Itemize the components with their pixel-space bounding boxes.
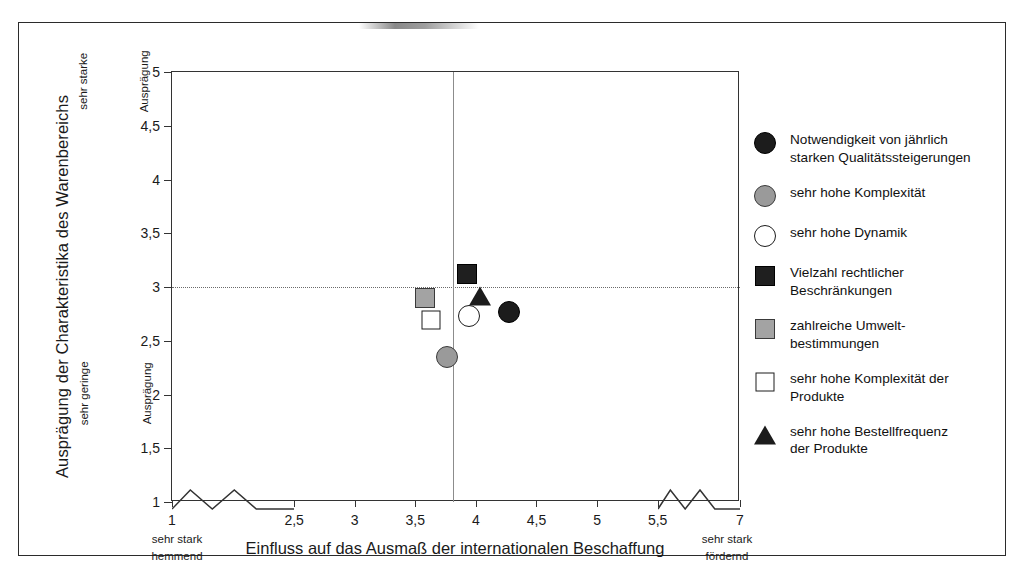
- x-axis-title: Einfluss auf das Ausmaß der internationa…: [171, 539, 739, 558]
- x-tick-label: 3: [351, 512, 359, 528]
- marker-square-gray: [755, 319, 775, 339]
- legend-label: sehr hohe Komplexität: [790, 184, 925, 202]
- x-axis-left-end-label: sehr stark hemmend: [129, 531, 225, 564]
- x-tick-mark: [740, 500, 741, 507]
- y-tick-label: 2: [152, 387, 160, 403]
- marker-square-filled: [457, 264, 477, 284]
- x-axis-right-end-label: sehr stark fördernd: [679, 531, 775, 564]
- y-tick-label: 3,5: [141, 225, 160, 241]
- x-tick-label: 4,5: [527, 512, 546, 528]
- data-point[interactable]: [469, 286, 491, 305]
- x-tick-label: 3,5: [406, 512, 425, 528]
- x-tick-mark: [658, 500, 659, 507]
- legend: Notwendigkeit von jährlich starken Quali…: [754, 131, 1012, 475]
- legend-label: sehr hohe Dynamik: [790, 224, 907, 242]
- y-tick-mark: [164, 341, 172, 342]
- y-tick-label: 2,5: [141, 333, 160, 349]
- y-axis-title: Ausprägung der Charakteristika des Waren…: [51, 71, 73, 501]
- reference-line-horizontal: [172, 287, 740, 288]
- legend-item[interactable]: Notwendigkeit von jährlich starken Quali…: [754, 131, 1012, 167]
- marker-circle-open: [458, 305, 480, 327]
- legend-item[interactable]: zahlreiche Umwelt- bestimmungen: [754, 317, 1012, 353]
- y-tick-label: 4: [152, 172, 160, 188]
- figure-frame: Ausprägung der Charakteristika des Waren…: [18, 22, 1006, 556]
- marker-triangle-filled: [469, 286, 491, 305]
- marker-circle-filled: [754, 132, 776, 154]
- x-tick-label: 5: [593, 512, 601, 528]
- y-tick-label: 4,5: [141, 118, 160, 134]
- y-tick-mark: [164, 180, 172, 181]
- data-point[interactable]: [458, 305, 480, 327]
- reference-line-vertical: [453, 72, 454, 502]
- x-tick-mark: [294, 500, 295, 507]
- marker-square-open: [756, 372, 775, 391]
- x-tick-mark: [355, 500, 356, 507]
- y-tick-mark: [164, 126, 172, 127]
- x-tick-label: 4: [472, 512, 480, 528]
- y-axis-top-end-label: sehr starke Ausprägung: [87, 75, 143, 183]
- x-tick-mark: [536, 500, 537, 507]
- y-axis-top-end-line2: Ausprägung: [138, 50, 151, 112]
- y-tick-label: 1,5: [141, 440, 160, 456]
- y-tick-label: 5: [152, 64, 160, 80]
- y-tick-mark: [164, 502, 172, 503]
- y-axis-bottom-end-label: sehr geringe Ausprägung: [87, 387, 143, 497]
- x-tick-label: 7: [736, 512, 744, 528]
- y-tick-mark: [164, 233, 172, 234]
- x-axis-break-left: [172, 488, 294, 510]
- legend-item[interactable]: sehr hohe Komplexität der Produkte: [754, 370, 1012, 406]
- plot-area: 11,522,533,544,55 12,533,544,555,57: [171, 71, 739, 501]
- x-tick-label: 5,5: [648, 512, 667, 528]
- y-tick-mark: [164, 448, 172, 449]
- x-tick-mark: [172, 500, 173, 507]
- legend-label: sehr hohe Komplexität der Produkte: [790, 370, 949, 406]
- legend-label: Notwendigkeit von jährlich starken Quali…: [790, 131, 971, 167]
- data-point[interactable]: [498, 301, 520, 323]
- y-tick-label: 1: [152, 494, 160, 510]
- data-point[interactable]: [436, 346, 458, 368]
- legend-item[interactable]: sehr hohe Komplexität: [754, 184, 1012, 207]
- data-point[interactable]: [422, 311, 441, 330]
- marker-square-filled: [755, 266, 775, 286]
- y-axis-title-text: Ausprägung der Charakteristika des Waren…: [53, 95, 72, 478]
- marker-square-open: [422, 311, 441, 330]
- y-axis-bottom-end-line1: sehr geringe: [77, 361, 90, 425]
- legend-item[interactable]: sehr hohe Dynamik: [754, 224, 1012, 247]
- scan-artifact: [359, 23, 479, 29]
- legend-swatch: [754, 185, 776, 207]
- y-tick-mark: [164, 72, 172, 73]
- x-axis-break-right: [658, 488, 740, 510]
- x-tick-label: 2,5: [284, 512, 303, 528]
- data-point[interactable]: [457, 264, 477, 284]
- legend-swatch: [754, 424, 776, 446]
- y-tick-mark: [164, 287, 172, 288]
- y-axis-top-end-line1: sehr starke: [77, 53, 90, 110]
- marker-circle-open: [754, 225, 776, 247]
- marker-circle-gray: [754, 185, 776, 207]
- y-tick-label: 3: [152, 279, 160, 295]
- marker-square-gray: [415, 288, 435, 308]
- x-tick-mark: [597, 500, 598, 507]
- legend-label: sehr hohe Bestellfrequenz der Produkte: [790, 423, 948, 459]
- y-tick-mark: [164, 395, 172, 396]
- x-tick-mark: [476, 500, 477, 507]
- x-tick-mark: [415, 500, 416, 507]
- legend-swatch: [754, 371, 776, 393]
- x-tick-label: 1: [168, 512, 176, 528]
- marker-triangle-filled: [754, 425, 776, 444]
- legend-swatch: [754, 225, 776, 247]
- legend-item[interactable]: sehr hohe Bestellfrequenz der Produkte: [754, 423, 1012, 459]
- legend-swatch: [754, 132, 776, 154]
- legend-label: Vielzahl rechtlicher Beschränkungen: [790, 264, 904, 300]
- legend-item[interactable]: Vielzahl rechtlicher Beschränkungen: [754, 264, 1012, 300]
- marker-circle-filled: [498, 301, 520, 323]
- data-point[interactable]: [415, 288, 435, 308]
- legend-swatch: [754, 265, 776, 287]
- marker-circle-gray: [436, 346, 458, 368]
- legend-swatch: [754, 318, 776, 340]
- legend-label: zahlreiche Umwelt- bestimmungen: [790, 317, 906, 353]
